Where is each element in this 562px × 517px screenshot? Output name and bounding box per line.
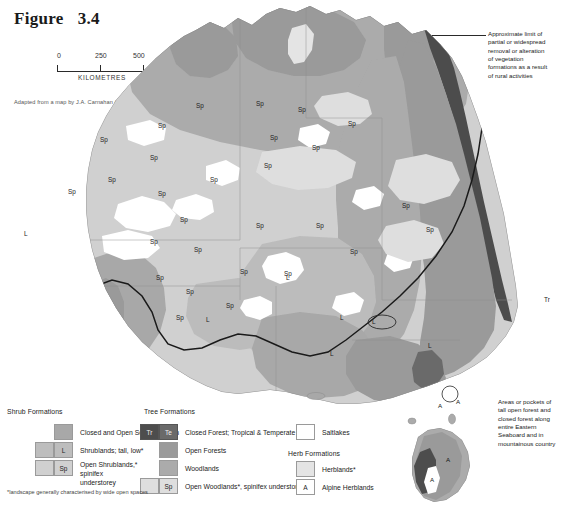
map-label-sp: Sp xyxy=(312,144,320,152)
map-label-sp: Sp xyxy=(298,106,306,114)
map-label-l: L xyxy=(206,316,210,323)
map-label-sp: Sp xyxy=(426,226,434,234)
legend-label-alpine-herblands: Alpine Herblands xyxy=(322,484,374,493)
legend-label-open-forests: Open Forests xyxy=(185,447,226,456)
legend-swatch-herblands xyxy=(296,461,315,477)
map-label-sp: Sp xyxy=(158,122,166,130)
legend-heading-tree: Tree Formations xyxy=(144,408,195,415)
legend-swatch-shrubland-blank xyxy=(35,442,54,458)
legend-label-saltlakes: Saltlakes xyxy=(322,429,350,438)
map-label-sp: Sp xyxy=(180,216,188,224)
map-label-sp: Sp xyxy=(348,120,356,128)
legend-swatch-open-shrubland: Sp xyxy=(54,460,73,476)
map-label-tr: Tr xyxy=(544,296,551,303)
legend-footnote: *landscape generally characterised by wi… xyxy=(7,489,148,495)
legend-swatch-closed-forest-temperate: Te xyxy=(159,424,178,440)
figure-page: Figure3.4 0 250 500 KILOMETRES Adapted f… xyxy=(0,0,562,517)
legend-heading-herb: Herb Formations xyxy=(288,450,340,457)
legend-swatch-saltlakes xyxy=(296,424,315,440)
map-label-l: L xyxy=(372,318,376,325)
legend-label-woodlands: Woodlands xyxy=(185,465,219,474)
map-label-sp: Sp xyxy=(196,102,204,110)
legend-heading-shrub: Shrub Formations xyxy=(7,408,63,415)
legend-swatch-woodlands xyxy=(159,460,178,476)
legend-swatch-open-woodlands: Sp xyxy=(159,478,178,494)
legend-swatch-open-forests xyxy=(159,442,178,458)
map-label-l: L xyxy=(428,342,432,349)
map-label-sp: Sp xyxy=(316,222,324,230)
rural-activity-limit-line-sw xyxy=(78,286,96,330)
map-label-sp: Sp xyxy=(194,246,202,254)
zone-open-forest-southwest xyxy=(84,278,124,364)
map-label-sp: Sp xyxy=(210,176,218,184)
legend-swatch-scrub-heath xyxy=(54,424,73,440)
annotation-rural-limit-text: Approximate limit of partial or widespre… xyxy=(488,30,547,79)
legend-label-closed-forest: Closed Forest; Tropical & Temperate xyxy=(185,429,295,438)
legend-label-open-woodlands: Open Woodlands*, spinifex understorey xyxy=(185,483,305,492)
map-label-sp: Sp xyxy=(240,268,248,276)
map-label-sp: Sp xyxy=(186,288,194,296)
legend-label-open-shrubland: Open Shrublands,* spinifex understorey xyxy=(80,461,140,487)
map-label-l: L xyxy=(330,350,334,357)
map-label-sp: Sp xyxy=(402,202,410,210)
map-label-l: L xyxy=(286,274,290,281)
annotation-rural-limit: Approximate limit of partial or widespre… xyxy=(488,30,550,80)
map-label-sp: Sp xyxy=(150,154,158,162)
map-label-l: L xyxy=(340,314,344,321)
map-label-sp: Sp xyxy=(150,238,158,246)
map-label-sp: Sp xyxy=(68,188,76,196)
annotation-leader-line xyxy=(432,35,486,36)
map-label-sp: Sp xyxy=(350,248,358,256)
map-label-l: L xyxy=(24,230,28,237)
map-label-sp: Sp xyxy=(108,176,116,184)
mainland-vegetation-zones xyxy=(60,0,540,420)
legend-label-shrubland: Shrublands; tall, low* xyxy=(80,447,143,456)
map-label-sp: Sp xyxy=(226,302,234,310)
map-label-sp: Sp xyxy=(176,314,184,322)
legend-swatch-shrubland: L xyxy=(54,442,73,458)
map-label-sp: Sp xyxy=(156,274,164,282)
map-label-sp: Sp xyxy=(256,100,264,108)
legend-swatch-alpine-herblands: A xyxy=(296,479,315,495)
map-legend: Shrub Formations Closed and Open Scrub &… xyxy=(0,398,562,517)
legend-swatch-open-shrubland-blank xyxy=(35,460,54,476)
map-label-sp: Sp xyxy=(264,162,272,170)
map-label-sp: Sp xyxy=(256,222,264,230)
legend-swatch-closed-forest-tropical: Tr xyxy=(140,424,159,440)
map-label-sp: Sp xyxy=(270,134,278,142)
map-label-sp: Sp xyxy=(158,190,166,198)
map-label-sp: Sp xyxy=(100,136,108,144)
legend-label-herblands: Herblands* xyxy=(322,466,356,475)
